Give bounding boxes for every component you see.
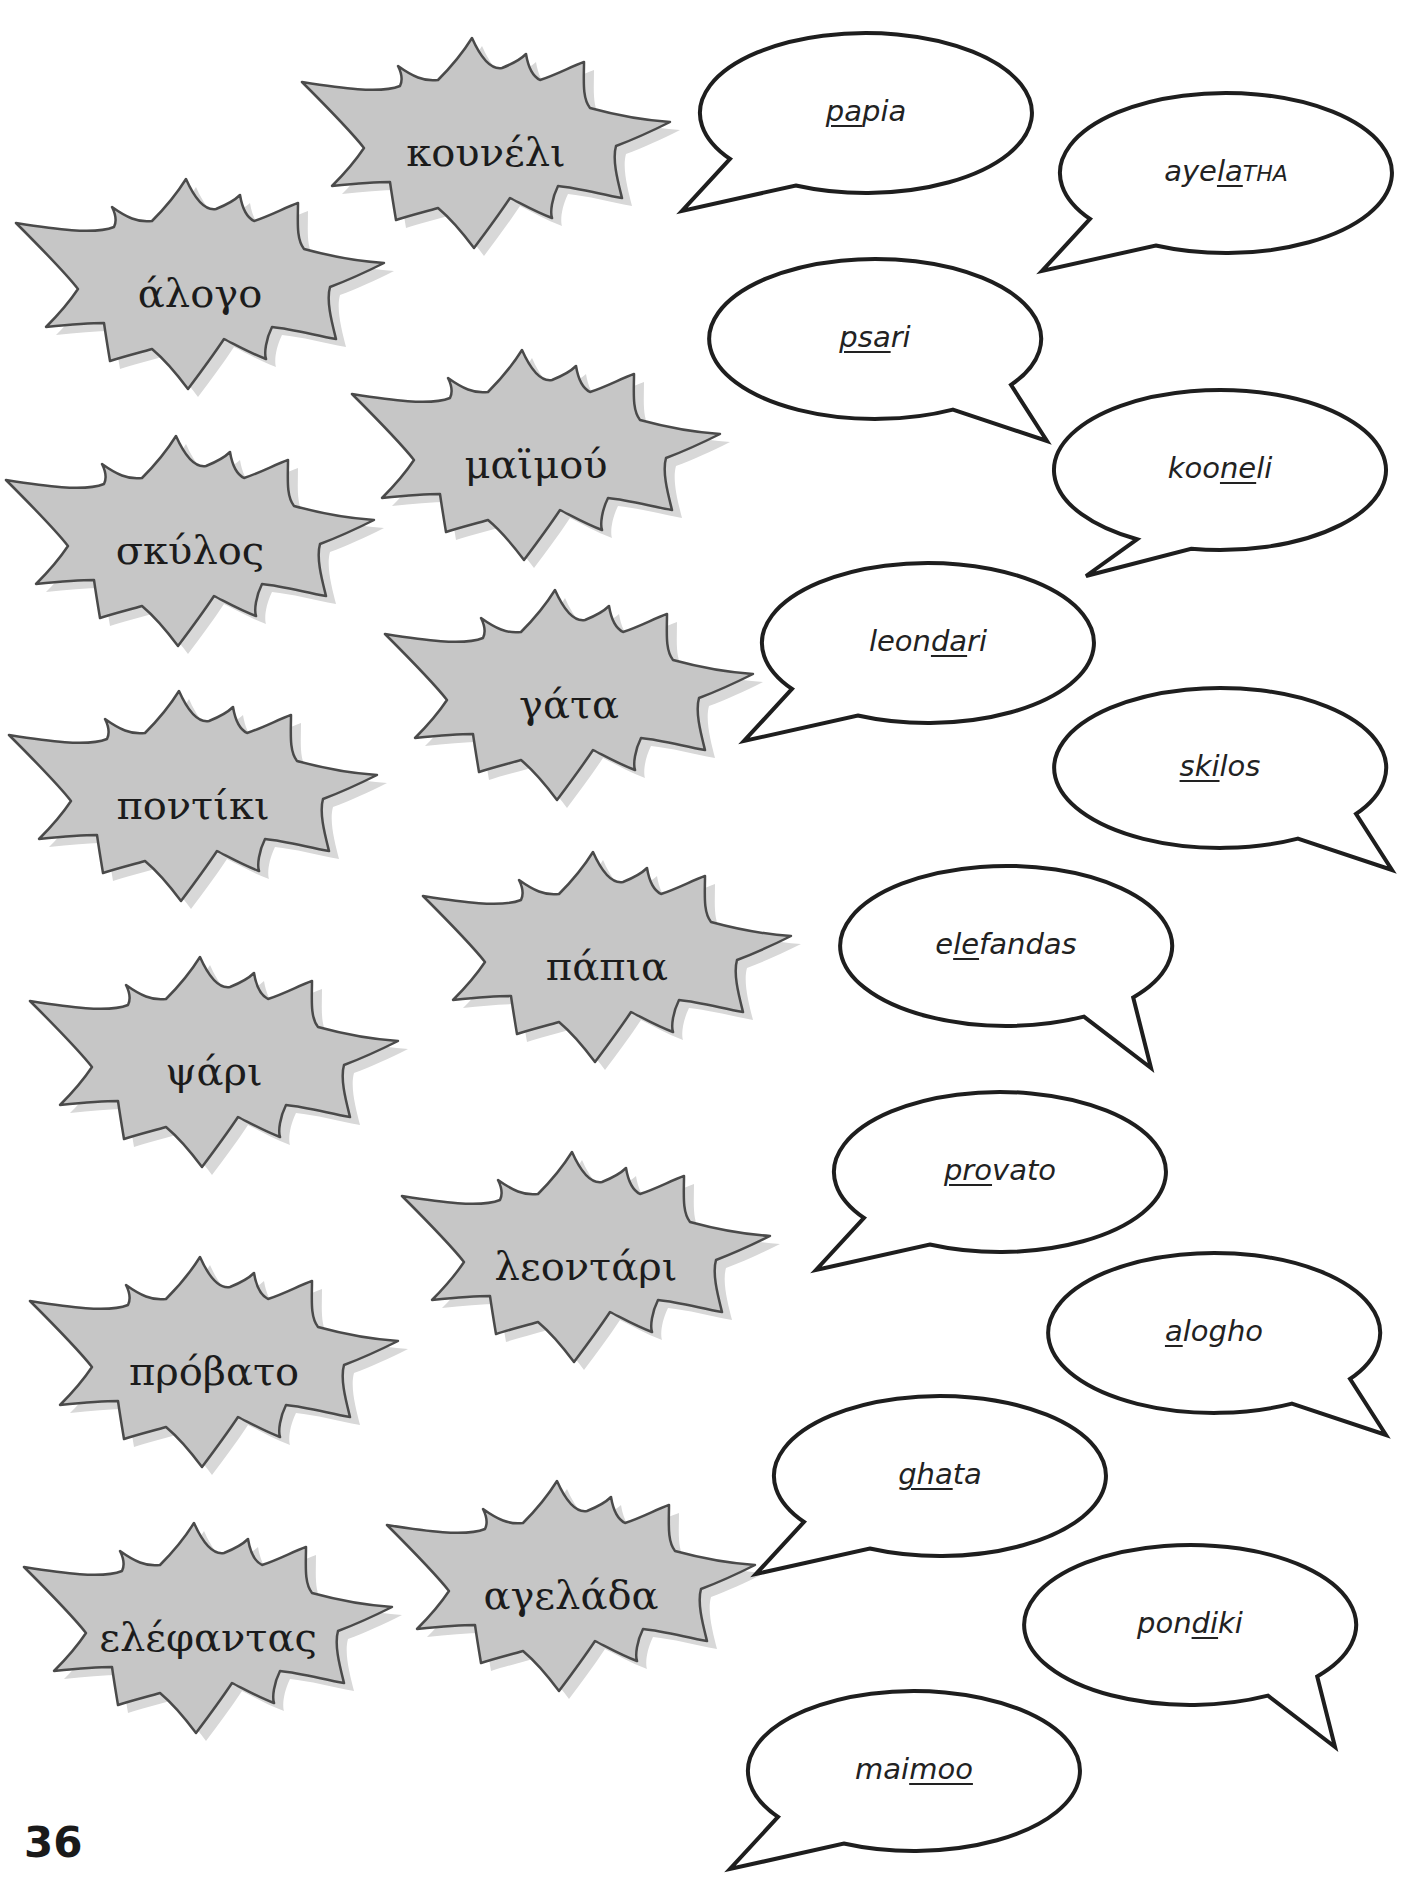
greek-word-label: πάπια (421, 850, 793, 1082)
greek-word-burst-alogo[interactable]: άλογο (14, 177, 386, 409)
greek-word-label: πρόβατο (28, 1255, 400, 1487)
stressed-syllable: moo (909, 1752, 973, 1786)
greek-word-burst-elefantas[interactable]: ελέφαντας (22, 1521, 394, 1753)
stressed-syllable: le (953, 927, 979, 961)
speech-bubble-papia[interactable]: papia (676, 3, 1056, 223)
pronunciation-label: leondari (738, 623, 1118, 662)
pre-stress-text: koo (1168, 451, 1220, 485)
stressed-syllable: a (1165, 1314, 1183, 1348)
greek-word-label: γάτα (383, 588, 755, 820)
speech-bubble-psari[interactable]: psari (685, 229, 1065, 449)
pre-stress-text: mai (855, 1752, 909, 1786)
stressed-syllable: pro (944, 1153, 992, 1187)
stressed-syllable: psa (839, 320, 890, 354)
greek-word-burst-gata[interactable]: γάτα (383, 588, 755, 820)
pre-stress-text: pon (1137, 1606, 1192, 1640)
speech-bubble-ayelatha[interactable]: ayelaTHA (1036, 63, 1412, 283)
post-stress-text: fandas (979, 927, 1077, 961)
stressed-syllable: di (1192, 1606, 1218, 1640)
stressed-syllable: ski (1180, 749, 1220, 783)
stressed-syllable: da (931, 624, 967, 658)
small-caps-text: THA (1243, 161, 1288, 186)
greek-word-burst-skylos[interactable]: σκύλος (4, 434, 376, 666)
stressed-syllable: pa (826, 94, 862, 128)
greek-word-label: αγελάδα (385, 1479, 757, 1711)
speech-bubble-elefandas[interactable]: elefandas (816, 836, 1196, 1056)
pronunciation-label: psari (685, 319, 1065, 358)
post-stress-text: los (1220, 749, 1261, 783)
pronunciation-label: provato (810, 1152, 1190, 1191)
pre-stress-text: e (935, 927, 953, 961)
pronunciation-label: pondiki (1000, 1605, 1380, 1644)
greek-word-burst-maimou[interactable]: μαϊμού (350, 348, 722, 580)
page-number: 36 (24, 1818, 82, 1867)
greek-word-burst-papia[interactable]: πάπια (421, 850, 793, 1082)
pronunciation-label: maimoo (724, 1751, 1104, 1790)
post-stress-text: ri (967, 624, 987, 658)
pre-stress-text: aye (1164, 154, 1217, 188)
pronunciation-label: elefandas (816, 926, 1196, 965)
pronunciation-label: kooneli (1030, 450, 1410, 489)
greek-word-burst-agelada[interactable]: αγελάδα (385, 1479, 757, 1711)
post-stress-text: ki (1218, 1606, 1243, 1640)
post-stress-text: ta (953, 1457, 982, 1491)
stressed-syllable: ne (1220, 451, 1256, 485)
post-stress-text: pia (862, 94, 906, 128)
post-stress-text: logho (1183, 1314, 1263, 1348)
greek-word-label: ελέφαντας (22, 1521, 394, 1753)
greek-word-label: λεοντάρι (400, 1150, 772, 1382)
pronunciation-label: papia (676, 93, 1056, 132)
greek-word-label: σκύλος (4, 434, 376, 666)
speech-bubble-maimoo[interactable]: maimoo (724, 1661, 1104, 1877)
pronunciation-label: ghata (750, 1456, 1130, 1495)
greek-word-burst-provato[interactable]: πρόβατο (28, 1255, 400, 1487)
greek-word-burst-psari[interactable]: ψάρι (28, 955, 400, 1187)
pronunciation-label: skilos (1030, 748, 1410, 787)
greek-word-burst-pontiki[interactable]: ποντίκι (7, 689, 379, 921)
post-stress-text: vato (992, 1153, 1056, 1187)
greek-word-label: ψάρι (28, 955, 400, 1187)
post-stress-text: ri (891, 320, 911, 354)
pronunciation-label: alogho (1024, 1313, 1404, 1352)
pre-stress-text: leon (869, 624, 931, 658)
stressed-syllable: gha (898, 1457, 953, 1491)
greek-word-label: άλογο (14, 177, 386, 409)
greek-word-burst-leontari[interactable]: λεοντάρι (400, 1150, 772, 1382)
greek-word-label: μαϊμού (350, 348, 722, 580)
greek-word-label: ποντίκι (7, 689, 379, 921)
post-stress-text: li (1256, 451, 1272, 485)
pronunciation-label: ayelaTHA (1036, 153, 1412, 192)
stressed-syllable: la (1217, 154, 1243, 188)
